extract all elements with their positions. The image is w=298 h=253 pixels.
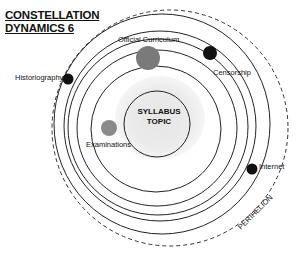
censorship-body[interactable] xyxy=(203,46,217,60)
center-label-line-1: SYLLABUS xyxy=(137,107,181,116)
examinations-body[interactable] xyxy=(101,120,117,136)
internet-body[interactable] xyxy=(247,164,258,175)
internet-label: Internet xyxy=(259,162,285,171)
center-label-line-2: TOPIC xyxy=(147,117,172,126)
constellation-diagram: SYLLABUS TOPIC Official Curriculum Censo… xyxy=(0,0,298,253)
examinations-label: Examinations xyxy=(86,140,131,149)
historiography-label: Historiography xyxy=(15,73,64,82)
official-curriculum-body[interactable] xyxy=(136,46,160,70)
historiography-body[interactable] xyxy=(63,74,74,85)
official-curriculum-label: Official Curriculum xyxy=(118,35,179,44)
censorship-label: Censorship xyxy=(213,68,251,77)
